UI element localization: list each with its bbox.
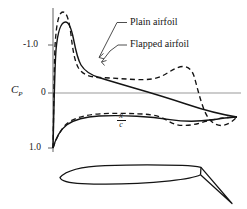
y-axis-label: CP	[11, 84, 23, 98]
y-tick-label-zero: 0	[41, 88, 46, 98]
legend-label-flapped-airfoil: Flapped airfoil	[130, 39, 189, 49]
x-axis-label: x c	[114, 112, 128, 130]
x-axis-label-numerator: x	[119, 111, 123, 120]
x-axis-label-denominator: c	[119, 120, 123, 129]
airfoil-profile-outline	[60, 165, 232, 204]
plain-lower-surface-curve	[53, 116, 237, 148]
y-tick-label-neg-one: -1.0	[23, 40, 38, 50]
plain-leader-line	[99, 23, 117, 58]
chart-canvas	[0, 0, 247, 209]
flapped-upper-surface-curve	[53, 12, 237, 148]
cp-distribution-figure: -1.0 0 1.0 CP x c Plain airfoil Flapped …	[0, 0, 247, 209]
y-tick-label-pos-one: 1.0	[29, 143, 41, 153]
y-axis-label-subscript: P	[18, 90, 22, 98]
legend-label-plain-airfoil: Plain airfoil	[130, 17, 178, 27]
flap-hinge-line	[201, 167, 202, 174]
